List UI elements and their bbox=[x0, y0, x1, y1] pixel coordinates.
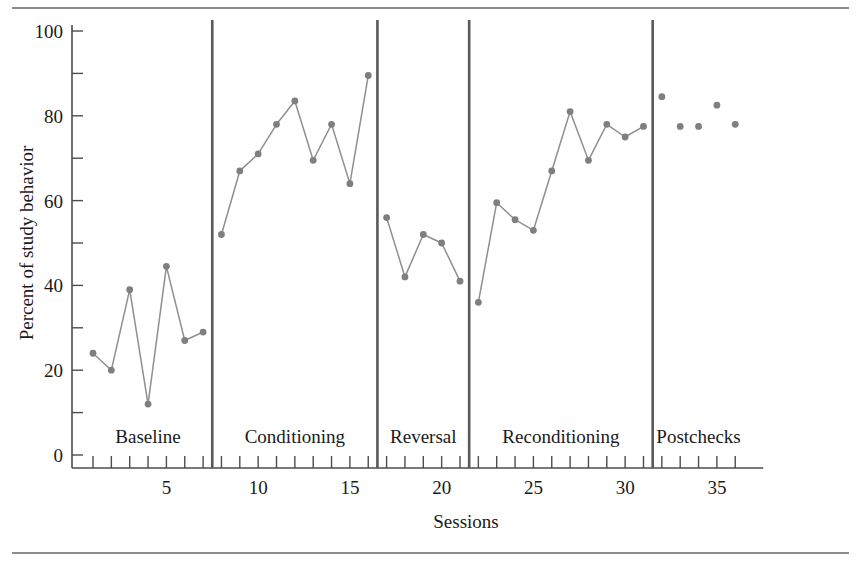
phase-label-reconditioning: Reconditioning bbox=[502, 426, 620, 447]
data-point bbox=[218, 231, 225, 238]
x-tick-label: 25 bbox=[524, 477, 543, 498]
y-tick-label: 20 bbox=[44, 360, 63, 381]
data-point bbox=[236, 168, 243, 175]
data-point bbox=[567, 108, 574, 115]
data-point bbox=[640, 123, 647, 130]
y-axis-tick-labels: 020406080100 bbox=[35, 21, 64, 466]
data-point bbox=[163, 263, 170, 270]
data-point bbox=[622, 134, 629, 141]
data-point bbox=[548, 168, 555, 175]
data-point bbox=[383, 214, 390, 221]
x-axis-ticks bbox=[93, 456, 735, 468]
data-point bbox=[420, 231, 427, 238]
data-point bbox=[530, 227, 537, 234]
data-point bbox=[732, 121, 739, 128]
y-tick-label: 0 bbox=[54, 445, 64, 466]
chart-svg: 020406080100 5101520253035 BaselineCondi… bbox=[0, 0, 861, 561]
data-point bbox=[328, 121, 335, 128]
data-point bbox=[603, 121, 610, 128]
phase-label-conditioning: Conditioning bbox=[245, 426, 346, 447]
x-tick-label: 35 bbox=[707, 477, 726, 498]
data-point bbox=[475, 299, 482, 306]
y-tick-label: 60 bbox=[44, 191, 63, 212]
data-point bbox=[310, 157, 317, 164]
data-point bbox=[695, 123, 702, 130]
x-axis-title: Sessions bbox=[433, 511, 498, 532]
data-point bbox=[347, 180, 354, 187]
data-point bbox=[181, 337, 188, 344]
data-point bbox=[658, 93, 665, 100]
x-tick-label: 20 bbox=[432, 477, 451, 498]
phase-label-postchecks: Postchecks bbox=[656, 426, 740, 447]
x-tick-label: 5 bbox=[162, 477, 172, 498]
x-tick-label: 10 bbox=[249, 477, 268, 498]
x-tick-label: 30 bbox=[616, 477, 635, 498]
data-point bbox=[493, 199, 500, 206]
series-line-baseline bbox=[93, 266, 203, 404]
data-point bbox=[145, 401, 152, 408]
data-point bbox=[291, 98, 298, 105]
phase-divider-lines bbox=[212, 20, 652, 468]
phase-label-reversal: Reversal bbox=[390, 426, 456, 447]
y-axis-title: Percent of study behavior bbox=[16, 145, 37, 340]
y-tick-label: 40 bbox=[44, 275, 63, 296]
chart-plot-area: 020406080100 5101520253035 BaselineCondi… bbox=[0, 0, 861, 561]
phase-label-baseline: Baseline bbox=[115, 426, 180, 447]
data-point bbox=[273, 121, 280, 128]
phase-labels: BaselineConditioningReversalReconditioni… bbox=[115, 426, 740, 447]
data-point bbox=[585, 157, 592, 164]
data-point bbox=[200, 329, 207, 336]
data-point bbox=[457, 278, 464, 285]
data-point bbox=[90, 350, 97, 357]
data-point bbox=[255, 151, 262, 158]
data-point bbox=[126, 286, 133, 293]
series-line-reversal bbox=[387, 218, 460, 282]
data-series-points bbox=[90, 72, 739, 407]
x-axis-tick-labels: 5101520253035 bbox=[162, 477, 727, 498]
y-axis-ticks bbox=[72, 31, 83, 455]
data-point bbox=[365, 72, 372, 79]
data-point bbox=[677, 123, 684, 130]
data-point bbox=[714, 102, 721, 109]
data-point bbox=[438, 240, 445, 247]
x-tick-label: 15 bbox=[340, 477, 359, 498]
figure: 020406080100 5101520253035 BaselineCondi… bbox=[0, 0, 861, 561]
y-tick-label: 100 bbox=[35, 21, 64, 42]
data-point bbox=[512, 216, 519, 223]
data-series-lines bbox=[93, 76, 644, 405]
series-line-reconditioning bbox=[478, 112, 643, 303]
data-point bbox=[108, 367, 115, 374]
y-tick-label: 80 bbox=[44, 106, 63, 127]
data-point bbox=[402, 274, 409, 281]
